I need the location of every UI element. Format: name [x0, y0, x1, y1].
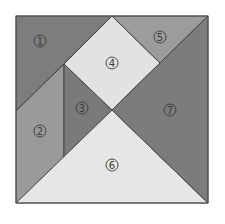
tangram-diagram: 1234567 [0, 0, 225, 224]
svg-text:4: 4 [109, 58, 115, 69]
svg-text:1: 1 [37, 36, 43, 47]
svg-text:2: 2 [37, 126, 43, 137]
svg-text:6: 6 [109, 160, 115, 171]
svg-text:3: 3 [79, 103, 85, 114]
svg-text:7: 7 [167, 105, 173, 116]
svg-text:5: 5 [157, 32, 163, 43]
